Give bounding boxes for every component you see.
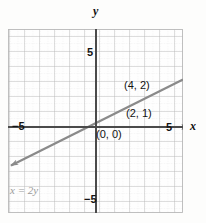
x-tick-negative-5: −5 bbox=[12, 121, 25, 132]
point-label-origin: (0, 0) bbox=[96, 129, 122, 140]
equation-label: x = 2y bbox=[10, 185, 38, 196]
y-tick-positive-5: 5 bbox=[87, 47, 93, 58]
y-axis-label: y bbox=[93, 5, 98, 17]
x-tick-positive-5: 5 bbox=[166, 122, 172, 133]
point-label-4-2: (4, 2) bbox=[124, 80, 150, 91]
y-tick-negative-5: −5 bbox=[84, 194, 97, 205]
coordinate-graph-figure: x y −5 5 5 −5 (0, 0) (2, 1) (4, 2) x = 2… bbox=[0, 0, 206, 223]
point-label-2-1: (2, 1) bbox=[126, 108, 152, 119]
x-axis-label: x bbox=[190, 120, 196, 132]
